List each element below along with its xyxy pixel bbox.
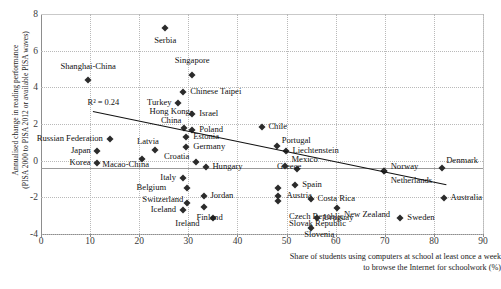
- x-tick-mark-10: [90, 234, 91, 237]
- x-axis-title-line2: to browse the Internet for schoolwork (%…: [245, 263, 501, 274]
- point-label-hong-kong-china: Hong Kong-China: [150, 107, 193, 125]
- x-tick-label-20: 20: [134, 236, 144, 246]
- point-label-italy: Italy: [160, 173, 176, 183]
- x-tick-mark-30: [188, 234, 189, 237]
- y-tick-label--4: -4: [26, 229, 38, 239]
- point-label-korea: Korea: [70, 158, 91, 168]
- x-tick-mark-60: [336, 234, 337, 237]
- gridline-x-70: [385, 14, 386, 234]
- x-tick-label-40: 40: [233, 236, 243, 246]
- x-tick-label-70: 70: [380, 236, 390, 246]
- point-label-singapore: Singapore: [175, 56, 210, 66]
- point-label-new-zealand: New Zealand: [344, 210, 390, 220]
- gridline-y--4: [41, 234, 483, 235]
- x-tick-label-0: 0: [39, 236, 44, 246]
- x-tick-label-10: 10: [85, 236, 95, 246]
- x-axis-title-line1: Share of students using computers at sch…: [245, 252, 501, 263]
- point-label-russian-federation: Russian Federation: [37, 134, 103, 144]
- scatter-chart: 0102030405060708090 -4-202468 SerbiaSing…: [0, 0, 501, 289]
- point-label-latvia: Latvia: [137, 138, 159, 148]
- point-label-serbia: Serbia: [154, 36, 176, 46]
- point-label-macao-china: Macao-China: [102, 161, 149, 171]
- point-label-costa-rica: Costa Rica: [317, 194, 354, 204]
- point-label-denmark: Denmark: [446, 156, 478, 166]
- gridline-y-8: [41, 14, 483, 15]
- point-label-iceland: Iceland: [151, 205, 176, 215]
- point-label-australia: Australia: [451, 194, 483, 204]
- x-tick-mark-90: [483, 234, 484, 237]
- point-label-japan: Japan: [71, 146, 91, 156]
- point-label-norway: Norway: [391, 162, 419, 172]
- gridline-y--2: [41, 197, 483, 198]
- x-tick-mark-20: [139, 234, 140, 237]
- x-tick-mark-50: [287, 234, 288, 237]
- point-label-sweden: Sweden: [407, 214, 434, 224]
- y-axis-title-line2: (PISA 2000 to PISA 2012 or available PIS…: [21, 0, 31, 225]
- point-label-finland: Finland: [196, 214, 222, 224]
- point-label-belgium: Belgium: [137, 183, 167, 193]
- point-label-shanghai-china: Shanghai-China: [60, 62, 115, 72]
- r-squared-annotation: R² = 0.24: [88, 98, 120, 107]
- x-axis-title: Share of students using computers at sch…: [245, 252, 501, 273]
- point-label-switzerland: Switzerland: [142, 195, 183, 205]
- point-label-chinese-taipei: Chinese Taipei: [190, 87, 241, 97]
- point-label-slovenia: Slovenia: [304, 230, 334, 240]
- gridline-x-90: [483, 14, 484, 234]
- point-label-chile: Chile: [268, 122, 287, 132]
- y-axis-title: Annualised change in reading performance…: [11, 0, 31, 225]
- gridline-x-40: [237, 14, 238, 234]
- gridline-y-4: [41, 87, 483, 88]
- gridline-x-20: [139, 14, 140, 234]
- x-tick-label-80: 80: [429, 236, 439, 246]
- y-axis-title-line1: Annualised change in reading performance: [11, 0, 21, 225]
- point-label-germany: Germany: [193, 142, 225, 152]
- point-label-israel: Israel: [199, 109, 218, 119]
- x-tick-mark-40: [237, 234, 238, 237]
- point-label-croatia: Croatia: [164, 152, 189, 162]
- point-label-hungary: Hungary: [212, 162, 242, 172]
- x-tick-label-90: 90: [478, 236, 488, 246]
- x-tick-mark-80: [434, 234, 435, 237]
- point-label-jordan: Jordan: [210, 192, 233, 202]
- gridline-x-80: [434, 14, 435, 234]
- x-tick-mark-70: [385, 234, 386, 237]
- gridline-x-10: [90, 14, 91, 234]
- x-tick-mark-0: [41, 234, 42, 237]
- x-tick-label-30: 30: [184, 236, 194, 246]
- x-tick-label-50: 50: [282, 236, 292, 246]
- gridline-y-6: [41, 51, 483, 52]
- point-label-spain: Spain: [302, 180, 322, 190]
